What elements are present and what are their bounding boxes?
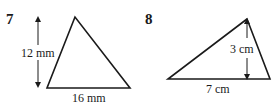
problem-number: 7 bbox=[6, 11, 14, 27]
height-label: 12 mm bbox=[21, 46, 55, 60]
triangle bbox=[168, 19, 270, 79]
problem-7: 7 12 mm 16 mm bbox=[6, 11, 130, 105]
height-label: 3 cm bbox=[230, 42, 254, 56]
problem-number: 8 bbox=[145, 11, 153, 27]
triangle bbox=[47, 17, 130, 88]
base-label: 16 mm bbox=[72, 91, 106, 105]
problem-8: 8 3 cm 7 cm bbox=[145, 11, 270, 96]
base-label: 7 cm bbox=[206, 82, 230, 96]
diagram-canvas: 7 12 mm 16 mm 8 3 cm 7 cm bbox=[0, 0, 276, 106]
